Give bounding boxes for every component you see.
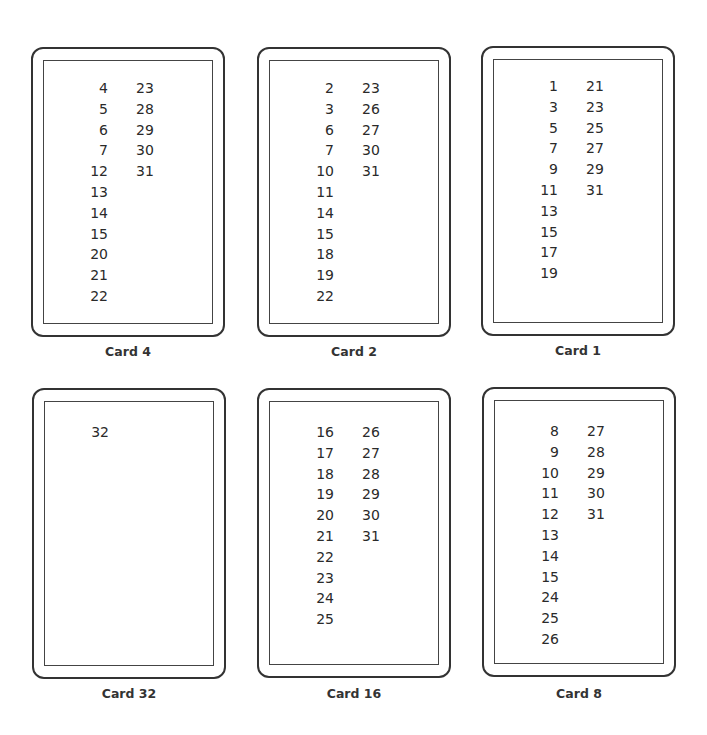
card-number: 15	[540, 222, 558, 243]
card-left-column: 2 3 6 7 10 11 14 15 18 19 22	[270, 78, 334, 307]
card-number: 22	[316, 286, 334, 307]
card-number: 21	[586, 76, 604, 97]
card-inner-frame: 1 3 5 7 9 11 13 15 17 19 21 23 25 27 29 …	[493, 59, 663, 323]
card-frame: 4 5 6 7 12 13 14 15 20 21 22 23 28 29 30…	[31, 47, 225, 337]
card-number: 28	[136, 99, 154, 120]
card-number: 6	[99, 120, 108, 141]
card-caption: Card 32	[32, 686, 226, 701]
card-number: 29	[136, 120, 154, 141]
card-number: 15	[541, 567, 559, 588]
card-number: 12	[90, 161, 108, 182]
card-number: 19	[316, 265, 334, 286]
card-number: 27	[362, 443, 380, 464]
card-number: 29	[586, 159, 604, 180]
card-number: 19	[316, 484, 334, 505]
card-number: 29	[362, 484, 380, 505]
card-number: 26	[362, 99, 380, 120]
card-number: 27	[586, 138, 604, 159]
card-number: 15	[90, 224, 108, 245]
card-number: 3	[549, 97, 558, 118]
card-number: 13	[90, 182, 108, 203]
card-number: 14	[316, 203, 334, 224]
card-right-column: 21 23 25 27 29 31	[586, 76, 626, 201]
card-left-column: 1 3 5 7 9 11 13 15 17 19	[494, 76, 558, 284]
card-number: 3	[325, 99, 334, 120]
card-number: 7	[99, 140, 108, 161]
card-number: 30	[362, 140, 380, 161]
card-caption: Card 4	[31, 344, 225, 359]
card-number: 25	[541, 608, 559, 629]
card-number: 25	[316, 609, 334, 630]
card-number: 26	[541, 629, 559, 650]
card-frame: 16 17 18 19 20 21 22 23 24 25 26 27 28 2…	[257, 388, 451, 678]
card-number: 8	[550, 421, 559, 442]
card-number: 31	[587, 504, 605, 525]
card-caption: Card 2	[257, 344, 451, 359]
card-inner-frame: 2 3 6 7 10 11 14 15 18 19 22 23 26 27 30…	[269, 60, 439, 324]
card-caption: Card 16	[257, 686, 451, 701]
card-number: 23	[316, 568, 334, 589]
card-number: 20	[316, 505, 334, 526]
card-number: 2	[325, 78, 334, 99]
card-number: 18	[316, 244, 334, 265]
card-inner-frame: 32	[44, 401, 214, 666]
card-number: 16	[316, 422, 334, 443]
card-number: 24	[541, 587, 559, 608]
card-number: 23	[586, 97, 604, 118]
card-number: 5	[99, 99, 108, 120]
card-inner-frame: 16 17 18 19 20 21 22 23 24 25 26 27 28 2…	[269, 401, 439, 665]
card-number: 11	[540, 180, 558, 201]
card-number: 20	[90, 244, 108, 265]
card-number: 30	[362, 505, 380, 526]
card-number: 28	[587, 442, 605, 463]
card-frame: 2 3 6 7 10 11 14 15 18 19 22 23 26 27 30…	[257, 47, 451, 337]
card-number: 15	[316, 224, 334, 245]
card-number: 32	[91, 422, 109, 443]
card-frame: 8 9 10 11 12 13 14 15 24 25 26 27 28 29 …	[482, 387, 676, 677]
card-number: 5	[549, 118, 558, 139]
card-number: 31	[362, 526, 380, 547]
card-number: 11	[316, 182, 334, 203]
card-number: 13	[541, 525, 559, 546]
card-caption: Card 1	[481, 343, 675, 358]
card-number: 6	[325, 120, 334, 141]
card-number: 1	[549, 76, 558, 97]
card-frame: 32	[32, 388, 226, 679]
card-number: 31	[136, 161, 154, 182]
card-number: 12	[541, 504, 559, 525]
card-number: 28	[362, 464, 380, 485]
card-number: 21	[316, 526, 334, 547]
card-number: 21	[90, 265, 108, 286]
card-right-column: 27 28 29 30 31	[587, 421, 627, 525]
card-right-column: 23 28 29 30 31	[136, 78, 176, 182]
card-number: 14	[90, 203, 108, 224]
card-number: 27	[362, 120, 380, 141]
card-left-column: 4 5 6 7 12 13 14 15 20 21 22	[44, 78, 108, 307]
card-number: 17	[540, 242, 558, 263]
card-number: 10	[541, 463, 559, 484]
card-number: 26	[362, 422, 380, 443]
card-number: 31	[362, 161, 380, 182]
card-number: 22	[90, 286, 108, 307]
card-inner-frame: 4 5 6 7 12 13 14 15 20 21 22 23 28 29 30…	[43, 60, 213, 324]
card-number: 9	[549, 159, 558, 180]
card-number: 19	[540, 263, 558, 284]
card-number: 18	[316, 464, 334, 485]
card-left-column: 32	[45, 422, 109, 443]
card-frame: 1 3 5 7 9 11 13 15 17 19 21 23 25 27 29 …	[481, 46, 675, 336]
card-number: 27	[587, 421, 605, 442]
card-number: 11	[541, 483, 559, 504]
card-left-column: 16 17 18 19 20 21 22 23 24 25	[270, 422, 334, 630]
card-number: 31	[586, 180, 604, 201]
card-number: 4	[99, 78, 108, 99]
card-number: 10	[316, 161, 334, 182]
card-number: 23	[136, 78, 154, 99]
card-number: 7	[325, 140, 334, 161]
card-number: 17	[316, 443, 334, 464]
card-inner-frame: 8 9 10 11 12 13 14 15 24 25 26 27 28 29 …	[494, 400, 664, 664]
card-number: 14	[541, 546, 559, 567]
card-number: 30	[587, 483, 605, 504]
card-number: 23	[362, 78, 380, 99]
card-number: 13	[540, 201, 558, 222]
card-right-column: 26 27 28 29 30 31	[362, 422, 402, 547]
